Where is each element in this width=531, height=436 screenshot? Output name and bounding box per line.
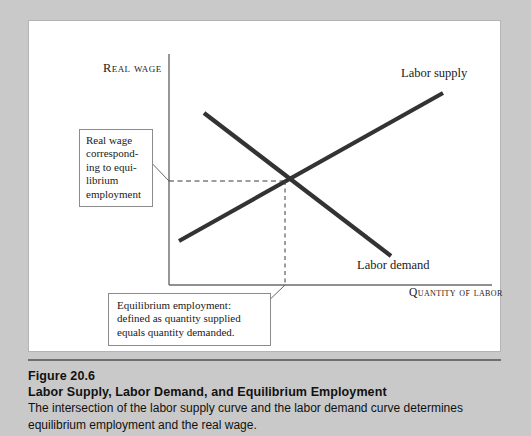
- figure-description-line-1: The intersection of the labor supply cur…: [28, 401, 501, 417]
- figure-title: Labor Supply, Labor Demand, and Equilibr…: [28, 384, 501, 400]
- labor-demand-curve: [204, 113, 391, 256]
- figure-number: Figure 20.6: [28, 368, 501, 384]
- real-wage-callout-line-5: employment: [86, 188, 147, 201]
- chart-panel: Real wage Quantity of labor Labor supply…: [28, 20, 501, 352]
- figure-caption: Figure 20.6 Labor Supply, Labor Demand, …: [28, 359, 501, 433]
- real-wage-callout-line-3: ing to equi-: [86, 161, 147, 174]
- figure-description-line-2: equilibrium employment and the real wage…: [28, 418, 501, 434]
- equilibrium-callout-line-3: equals quantity demanded.: [117, 326, 264, 339]
- y-axis-title: Real wage: [103, 61, 162, 76]
- labor-supply-curve: [179, 93, 443, 241]
- caption-divider: [28, 359, 501, 361]
- equilibrium-callout-line-1: Equilibrium employment:: [117, 299, 264, 312]
- x-axis-title: Quantity of labor: [409, 286, 503, 298]
- labor-demand-label: Labor demand: [357, 258, 430, 273]
- real-wage-callout-line-2: correspond-: [86, 147, 147, 160]
- real-wage-callout-line-4: librium: [86, 174, 147, 187]
- figure-frame: Real wage Quantity of labor Labor supply…: [18, 12, 513, 424]
- equilibrium-employment-callout: Equilibrium employment: defined as quant…: [108, 293, 271, 346]
- real-wage-callout: Real wage correspond- ing to equi- libri…: [79, 129, 153, 207]
- real-wage-callout-line-1: Real wage: [86, 134, 147, 147]
- labor-supply-label: Labor supply: [401, 66, 467, 81]
- equilibrium-callout-line-2: defined as quantity supplied: [117, 312, 264, 325]
